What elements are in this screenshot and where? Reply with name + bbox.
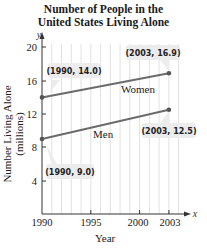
y-tick-16: 16	[27, 76, 38, 87]
series-label-men: Men	[93, 128, 114, 140]
svg-text:(2003, 12.5): (2003, 12.5)	[141, 127, 196, 136]
y-tick-20: 20	[27, 42, 38, 53]
x-tick-1995: 1995	[81, 217, 102, 228]
x-tick-2003: 2003	[160, 217, 181, 228]
y-axis-label: Number Living Alone (millions)	[1, 69, 25, 199]
x-axis-name: x	[192, 208, 198, 219]
x-axis	[42, 210, 191, 217]
callout-women-2003: (2003, 16.9)	[125, 45, 180, 70]
x-axis-arrow-icon	[184, 212, 191, 217]
y-tick-4: 4	[32, 176, 38, 187]
svg-text:(2003, 16.9): (2003, 16.9)	[125, 49, 180, 58]
y-tick-8: 8	[32, 142, 37, 153]
x-axis-label: Year	[95, 232, 115, 244]
callout-men-1990: (1990, 9.0)	[45, 144, 95, 179]
x-tick-1990: 1990	[32, 217, 53, 228]
svg-text:(1990, 9.0): (1990, 9.0)	[45, 168, 95, 177]
y-axis-name: y	[36, 29, 42, 40]
x-tick-2000: 2000	[128, 217, 149, 228]
svg-text:(1990, 14.0): (1990, 14.0)	[46, 67, 101, 76]
series-label-women: Women	[121, 83, 155, 95]
y-axis	[40, 32, 47, 214]
y-tick-12: 12	[27, 109, 38, 120]
line-chart: 20 16 12 8 4 1990 1995 2000 2003 y x (19…	[0, 0, 207, 249]
